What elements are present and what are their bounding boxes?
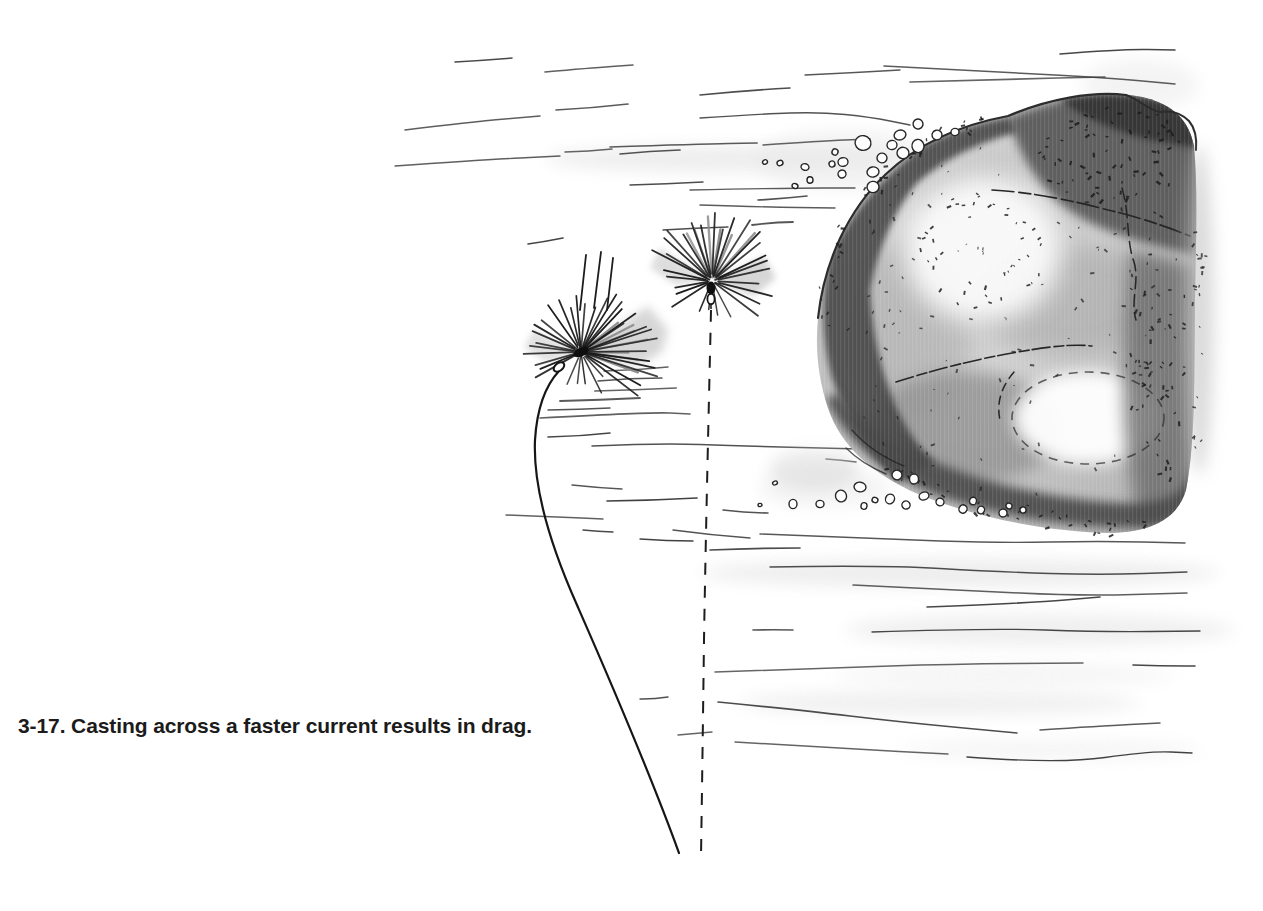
dry-fly-left <box>524 295 668 396</box>
figure-caption: 3-17. Casting across a faster current re… <box>18 714 532 738</box>
spray-lines <box>580 252 613 310</box>
figure-illustration: 3-17. Casting across a faster current re… <box>0 0 1263 911</box>
dry-fly-right <box>650 213 776 317</box>
illustration-canvas <box>0 0 1263 911</box>
drift-path-dashed <box>701 310 711 857</box>
hook-eye <box>707 294 714 304</box>
fly-line <box>535 371 679 853</box>
